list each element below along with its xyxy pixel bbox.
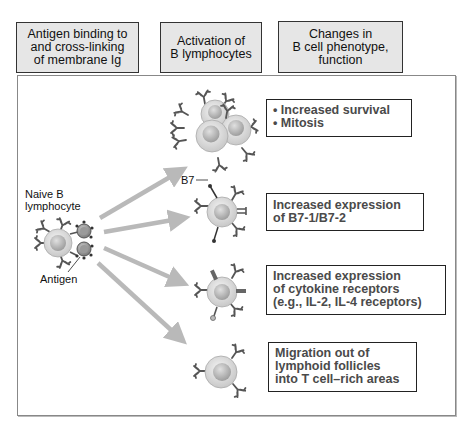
antigen-particle — [75, 220, 93, 238]
outcome-b7-expression: Increased expression of B7-1/B7-2 — [266, 193, 424, 231]
label-line: lymphocyte — [25, 200, 81, 212]
naive-b-cell — [35, 217, 94, 272]
cytokine-receptor-b-cell — [195, 263, 246, 320]
outcome-cytokine-receptors: Increased expression of cytokine recepto… — [266, 265, 446, 315]
outcome-line: (e.g., IL-2, IL-4 receptors) — [273, 296, 439, 309]
arrow-to-proliferation — [100, 170, 182, 218]
b7-label: B7 — [181, 174, 194, 186]
outcome-line: • Mitosis — [273, 117, 405, 130]
outcome-line: of B7-1/B7-2 — [273, 212, 417, 225]
antigen-particle — [75, 242, 93, 260]
outcome-line: into T cell–rich areas — [275, 373, 410, 386]
proliferating-b-cells — [171, 90, 258, 172]
label-line: Naive B — [25, 188, 81, 200]
outcome-migration: Migration out of lymphoid follicles into… — [268, 342, 417, 392]
migrating-b-cell — [194, 343, 247, 398]
antigen-label: Antigen — [40, 273, 77, 285]
b7-expressing-b-cell — [195, 180, 246, 243]
arrow-to-b7 — [104, 218, 184, 232]
outcome-survival-mitosis: • Increased survival • Mitosis — [266, 99, 412, 137]
naive-b-lymphocyte-label: Naive B lymphocyte — [25, 188, 81, 212]
